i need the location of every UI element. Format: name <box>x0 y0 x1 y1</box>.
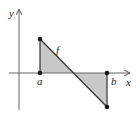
point-a-top <box>38 37 43 42</box>
integral-diagram: y x f a b <box>0 0 139 120</box>
point-a-label: a <box>37 75 43 87</box>
x-axis-label: x <box>125 76 131 88</box>
point-b-bottom <box>105 105 110 110</box>
y-axis-label: y <box>8 7 14 19</box>
function-label: f <box>56 44 61 56</box>
point-b-label: b <box>111 75 117 87</box>
point-b <box>105 71 110 76</box>
